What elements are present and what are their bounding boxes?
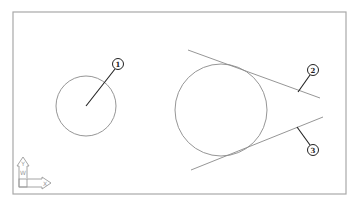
upper-tangent-line[interactable]: [188, 50, 320, 98]
ucs-w-label: W: [20, 169, 26, 176]
callout-2-label: 2: [311, 66, 316, 75]
ucs-x-label: X: [43, 180, 47, 187]
lower-tangent-line[interactable]: [191, 117, 323, 170]
callout-3-label: 3: [311, 146, 316, 155]
ucs-y-label: Y: [20, 160, 25, 167]
callout-1-label: 1: [116, 60, 121, 69]
ucs-origin-box: [19, 179, 27, 187]
callout-3: 3: [297, 127, 319, 156]
large-circle[interactable]: [175, 64, 267, 156]
callout-1-leader: [86, 69, 115, 106]
callout-2: 2: [298, 65, 319, 93]
drawing-frame: [13, 12, 346, 194]
ucs-icon: Y W X: [17, 157, 51, 189]
drawing-canvas: 1 2 3 Y W X: [0, 0, 358, 204]
callout-1: 1: [86, 59, 124, 107]
callout-3-leader: [297, 127, 310, 145]
callout-2-leader: [298, 75, 310, 92]
